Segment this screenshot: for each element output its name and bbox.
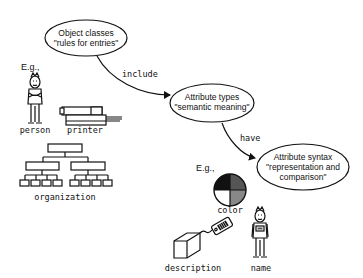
node-subtitle: "semantic meaning" <box>174 102 249 112</box>
node-subtitle: "representation and <box>266 162 340 172</box>
example-label-printer: printer <box>67 125 103 135</box>
description-icon <box>174 217 233 258</box>
node-subtitle: "rules for entries" <box>54 38 119 48</box>
eg-label-attributes: E.g., <box>196 163 215 173</box>
color-wheel-icon <box>214 174 246 206</box>
node-object-classes: Object classes "rules for entries" <box>45 20 127 56</box>
edge-label-include: include <box>122 69 158 79</box>
node-attribute-types: Attribute types "semantic meaning" <box>170 84 254 122</box>
node-title: Object classes <box>58 28 113 38</box>
node-subtitle-cont: comparison" <box>280 172 327 182</box>
edge-include: include <box>97 56 170 95</box>
edge-label-have: have <box>240 133 260 143</box>
edge-have: have <box>222 123 260 158</box>
name-badge-person-icon <box>252 207 268 257</box>
organization-icon <box>20 144 112 186</box>
example-label-organization: organization <box>34 192 95 202</box>
eg-label-objects: E.g., <box>21 62 40 72</box>
node-attribute-syntax: Attribute syntax "representation and com… <box>257 144 349 190</box>
example-label-description: description <box>165 263 221 273</box>
example-label-name: name <box>251 263 271 273</box>
node-title: Attribute syntax <box>274 152 333 162</box>
example-label-person: person <box>20 125 51 135</box>
person-icon <box>28 73 42 123</box>
node-title: Attribute types <box>185 92 239 102</box>
printer-icon <box>60 107 122 125</box>
example-label-color: color <box>217 205 243 215</box>
ldap-schema-diagram: include have Object classes "rules for e… <box>0 0 363 278</box>
